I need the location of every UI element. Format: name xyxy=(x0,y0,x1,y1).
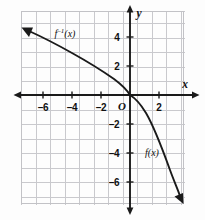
curve-label-f-inverse: f–1(x) xyxy=(55,27,76,39)
x-axis xyxy=(14,92,200,99)
y-tick-label-neg2: –2 xyxy=(109,119,120,130)
x-tick-label-pos2: 2 xyxy=(156,102,161,113)
origin-label: O xyxy=(118,100,126,112)
y-axis-label: y xyxy=(136,7,141,19)
y-tick-label-pos2: 2 xyxy=(114,61,119,72)
x-tick-label-neg6: –6 xyxy=(38,102,49,113)
graph-figure: –6 –4 –2 2 4 2 –2 –4 –6 O x y f–1(x) f(x… xyxy=(0,0,205,220)
x-tick-label-neg2: –2 xyxy=(96,102,107,113)
x-tick-label-neg4: –4 xyxy=(67,102,78,113)
x-axis-label: x xyxy=(182,78,188,90)
y-tick-label-neg6: –6 xyxy=(109,177,120,188)
y-tick-label-neg4: –4 xyxy=(109,148,120,159)
y-tick-label-pos4: 4 xyxy=(114,32,119,43)
curve-label-f: f(x) xyxy=(145,147,159,158)
f-inverse-exponent: –1 xyxy=(57,27,64,35)
f-inverse-argument: (x) xyxy=(64,28,75,39)
